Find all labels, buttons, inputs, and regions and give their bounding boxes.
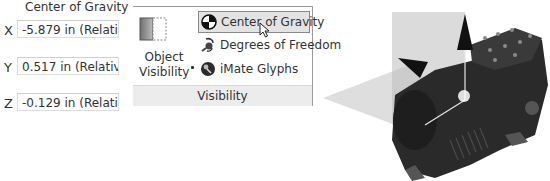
ribbon-group-label: Visibility: [133, 85, 312, 106]
object-visibility-icon: [139, 17, 167, 41]
imate-glyphs-button[interactable]: iMate Glyphs: [198, 59, 310, 79]
axis-label-x: X: [4, 23, 13, 38]
cog-x-field[interactable]: -5.879 in (Relative: [17, 20, 119, 38]
3d-model-viewport[interactable]: [320, 0, 550, 181]
cog-z-field[interactable]: -0.129 in (Relative: [17, 93, 119, 111]
object-visibility-label-line2: Visibility: [139, 65, 189, 80]
visibility-ribbon-group: Object Visibility Center of Gravity Degr…: [133, 6, 313, 106]
cog-row-z: Z -0.129 in (Relative: [0, 93, 122, 115]
center-of-gravity-button[interactable]: Center of Gravity: [198, 11, 310, 33]
degrees-of-freedom-icon: [200, 37, 216, 53]
cog-row-y: Y 0.517 in (Relative E: [0, 57, 122, 79]
center-of-gravity-label: Center of Gravity: [221, 12, 324, 32]
imate-glyphs-icon: [200, 61, 216, 77]
center-of-gravity-panel: Center of Gravity X -5.879 in (Relative …: [0, 0, 122, 120]
object-visibility-button[interactable]: Object Visibility: [133, 7, 189, 85]
imate-glyphs-label: iMate Glyphs: [220, 59, 298, 79]
mouse-pointer-icon: [259, 22, 271, 38]
cog-y-field[interactable]: 0.517 in (Relative E: [17, 57, 119, 75]
axis-label-z: Z: [4, 96, 13, 111]
axis-label-y: Y: [4, 60, 12, 75]
center-of-gravity-marker: [458, 90, 470, 102]
panel-title: Center of Gravity: [25, 0, 128, 14]
object-visibility-label-line1: Object: [139, 50, 189, 65]
object-visibility-label: Object Visibility: [139, 50, 189, 80]
degrees-of-freedom-button[interactable]: Degrees of Freedom: [198, 35, 310, 55]
center-of-gravity-icon: [201, 14, 217, 30]
dropdown-arrow-icon[interactable]: [191, 66, 194, 69]
cog-row-x: X -5.879 in (Relative: [0, 20, 122, 42]
